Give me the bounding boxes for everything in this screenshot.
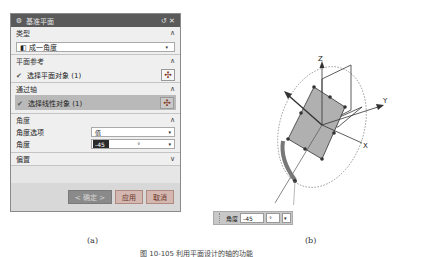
section-plane-reference-label: 平面参考 bbox=[16, 56, 44, 66]
angle-option-label: 角度选项 bbox=[16, 127, 91, 137]
caption-a: (a) bbox=[87, 236, 98, 245]
apply-button[interactable]: 应用 bbox=[115, 190, 143, 204]
crosshair-select-button[interactable]: ✣ bbox=[160, 97, 174, 109]
caption-b: (b) bbox=[305, 236, 316, 245]
type-select[interactable]: ◧ 成一角度 ▾ bbox=[16, 42, 175, 52]
mini-angle-label: 角度 bbox=[226, 214, 238, 223]
section-type-label: 类型 bbox=[16, 28, 30, 38]
select-plane-object-label: 选择平面对象 (1) bbox=[27, 72, 81, 80]
chevron-down-icon[interactable]: ▾ bbox=[168, 141, 174, 147]
angle-unit[interactable]: ° bbox=[109, 141, 168, 148]
angle-field: -45 ° ▾ bbox=[91, 139, 175, 149]
angle-option-select[interactable]: 值 ▾ bbox=[91, 127, 175, 137]
chevron-down-icon[interactable]: ∨ bbox=[170, 155, 175, 163]
onscreen-angle-input: 角度 -45 ° ▾ bbox=[213, 211, 293, 225]
dialog-title: 基准平面 bbox=[26, 16, 160, 26]
section-plane-reference-header[interactable]: 平面参考 ∧ bbox=[11, 55, 180, 67]
drag-handle[interactable] bbox=[219, 213, 223, 223]
check-icon: ✔ bbox=[17, 100, 23, 108]
angle-option-value: 值 bbox=[93, 128, 123, 136]
datum-plane-preview: Z Y X bbox=[250, 55, 424, 205]
cancel-button[interactable]: 取消 bbox=[146, 190, 174, 204]
ok-button[interactable]: < 确定 > bbox=[68, 190, 112, 204]
section-type: 类型 ∧ ◧ 成一角度 ▾ bbox=[11, 27, 180, 55]
x-axis-label: X bbox=[363, 142, 368, 150]
angle-label: 角度 bbox=[16, 139, 91, 149]
datum-plane-dialog: ⚙ 基准平面 ↺ ✕ 类型 ∧ ◧ 成一角度 ▾ 平面参考 ∧ ✔ bbox=[10, 13, 181, 212]
chevron-down-icon: ▾ bbox=[165, 44, 171, 50]
chevron-up-icon[interactable]: ∧ bbox=[170, 29, 175, 37]
mini-angle-input[interactable]: -45 bbox=[240, 213, 264, 223]
figure-caption: 图 10-105 利用平面设计的轴的功能 bbox=[140, 248, 290, 257]
section-through-axis-header[interactable]: 通过轴 ∧ bbox=[11, 83, 180, 95]
section-angle-label: 角度 bbox=[16, 115, 30, 125]
section-angle: 角度 ∧ 角度选项 值 ▾ 角度 -45 ° ▾ bbox=[11, 114, 180, 153]
y-axis-label: Y bbox=[382, 97, 388, 105]
chevron-up-icon[interactable]: ∧ bbox=[170, 85, 175, 93]
chevron-up-icon[interactable]: ∧ bbox=[170, 57, 175, 65]
type-select-value: 成一角度 bbox=[29, 44, 57, 52]
check-icon: ✔ bbox=[16, 72, 22, 80]
section-angle-header[interactable]: 角度 ∧ bbox=[11, 114, 180, 126]
section-through-axis-label: 通过轴 bbox=[16, 84, 37, 94]
section-offset-header[interactable]: 偏置 ∨ bbox=[11, 153, 180, 165]
angle-input[interactable]: -45 bbox=[93, 140, 109, 148]
section-plane-reference: 平面参考 ∧ ✔ 选择平面对象 (1) ✣ bbox=[11, 55, 180, 83]
select-plane-object[interactable]: ✔ 选择平面对象 (1) ✣ bbox=[11, 67, 180, 82]
dialog-titlebar: ⚙ 基准平面 ↺ ✕ bbox=[11, 14, 180, 27]
chevron-down-icon[interactable]: ▾ bbox=[282, 213, 291, 223]
crosshair-select-button[interactable]: ✣ bbox=[161, 69, 175, 81]
section-offset: 偏置 ∨ bbox=[11, 153, 180, 166]
section-type-header[interactable]: 类型 ∧ bbox=[11, 27, 180, 39]
angle-plane-icon: ◧ bbox=[20, 44, 27, 52]
mini-angle-unit[interactable]: ° bbox=[266, 213, 280, 223]
section-offset-label: 偏置 bbox=[16, 154, 30, 164]
reset-icon[interactable]: ↺ bbox=[160, 17, 168, 25]
z-axis-label: Z bbox=[318, 55, 323, 63]
select-linear-object-label: 选择线性对象 (1) bbox=[28, 100, 82, 108]
section-through-axis: 通过轴 ∧ ✔ 选择线性对象 (1) ✣ bbox=[11, 83, 180, 114]
rotated-plane bbox=[288, 87, 345, 159]
select-linear-object[interactable]: ✔ 选择线性对象 (1) ✣ bbox=[15, 95, 176, 110]
angle-arc-handle[interactable] bbox=[283, 141, 296, 180]
chevron-up-icon[interactable]: ∧ bbox=[170, 116, 175, 124]
gear-icon[interactable]: ⚙ bbox=[15, 17, 23, 25]
close-icon[interactable]: ✕ bbox=[168, 17, 176, 25]
chevron-down-icon: ▾ bbox=[168, 129, 174, 135]
dialog-footer: < 确定 > 应用 取消 bbox=[11, 183, 180, 211]
